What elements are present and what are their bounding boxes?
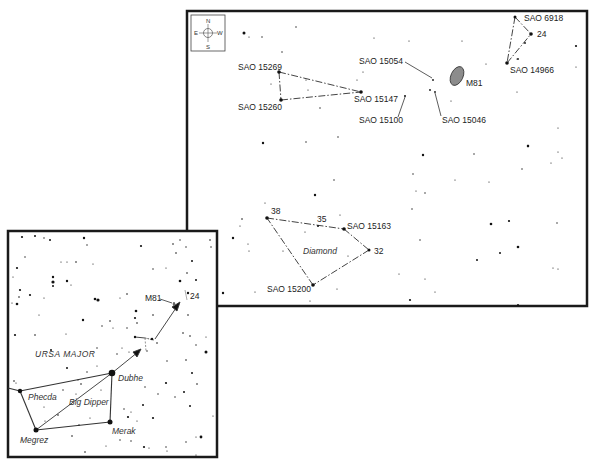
star-sao-15200 — [311, 283, 315, 287]
star-merak — [108, 420, 113, 425]
compass-rose: N S E W — [191, 15, 225, 51]
label-sao-15046: SAO 15046 — [442, 115, 486, 125]
star-dubhe — [109, 370, 116, 377]
compass-south: S — [206, 44, 210, 50]
label-ursa-major: URSA MAJOR — [35, 349, 95, 359]
label-sao-15260: SAO 15260 — [238, 102, 282, 112]
compass-east: E — [194, 30, 198, 36]
finder-chart-panel: M81 24 URSA MAJOR Big Dipper Dubhe Merak… — [8, 231, 217, 457]
label-sao-15163: SAO 15163 — [347, 221, 391, 231]
star-chart-canvas: N S E W SAO 15269 SAO 15260 SAO 15147 SA… — [0, 0, 599, 470]
label-24: 24 — [537, 29, 547, 39]
label-sao-15054: SAO 15054 — [359, 56, 403, 66]
star-38 — [265, 216, 269, 220]
star-24-finder — [187, 292, 189, 294]
star-sao-14966 — [505, 61, 509, 65]
label-35: 35 — [317, 214, 327, 224]
label-phecda: Phecda — [28, 392, 57, 402]
compass-north: N — [206, 18, 210, 24]
galaxy-m81-finder-icon — [173, 302, 176, 306]
label-38: 38 — [271, 206, 281, 216]
finder-label-m81: M81 — [145, 293, 162, 303]
star-32 — [368, 249, 371, 252]
finder-label-24: 24 — [190, 291, 200, 301]
detail-chart-panel: N S E W SAO 15269 SAO 15260 SAO 15147 SA… — [187, 11, 587, 306]
star-35 — [317, 225, 319, 227]
label-sao-15200: SAO 15200 — [267, 284, 311, 294]
star-phecda — [18, 389, 22, 393]
compass-west: W — [217, 30, 223, 36]
label-big-dipper: Big Dipper — [69, 397, 110, 407]
label-m81: M81 — [466, 78, 483, 88]
label-sao-14966: SAO 14966 — [510, 65, 554, 75]
label-sao-6918: SAO 6918 — [524, 13, 563, 23]
label-diamond: Diamond — [303, 246, 337, 256]
label-dubhe: Dubhe — [118, 373, 143, 383]
star-sao-6918 — [514, 16, 517, 19]
label-megrez: Megrez — [20, 435, 49, 445]
label-merak: Merak — [112, 426, 136, 436]
label-sao-15100: SAO 15100 — [359, 115, 403, 125]
label-32: 32 — [374, 246, 384, 256]
star-megrez — [34, 428, 39, 433]
label-sao-15147: SAO 15147 — [354, 94, 398, 104]
label-sao-15269: SAO 15269 — [238, 62, 282, 72]
finder-chart-frame — [8, 231, 217, 457]
star-sao-15163 — [342, 227, 346, 231]
star-24 — [529, 32, 533, 36]
